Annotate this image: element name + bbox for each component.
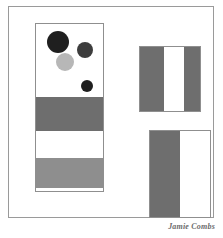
bottom-right-half-block [149,130,211,218]
stripe-gray-stripe-left [150,131,180,217]
stripe-white-stripe-center [164,47,184,111]
artwork-frame [8,6,214,218]
artwork-canvas: Jamie Combs [0,0,223,238]
stripe-gray-stripe-left [140,47,164,111]
circle-small-black-circle [81,80,93,92]
artist-signature: Jamie Combs [168,222,215,231]
band-dark-gray-band [36,97,103,131]
band-light-gray-band [36,158,103,188]
circle-medium-dark-gray-circle [77,42,93,58]
left-vertical-panel [35,23,104,192]
top-right-striped-block [139,46,201,112]
circle-light-gray-circle [56,53,74,71]
circle-large-black-circle [47,31,69,53]
stripe-gray-stripe-right [184,47,200,111]
band-white-strip-bottom [36,188,103,192]
stripe-white-stripe-right [180,131,210,217]
band-white-band [36,131,103,158]
